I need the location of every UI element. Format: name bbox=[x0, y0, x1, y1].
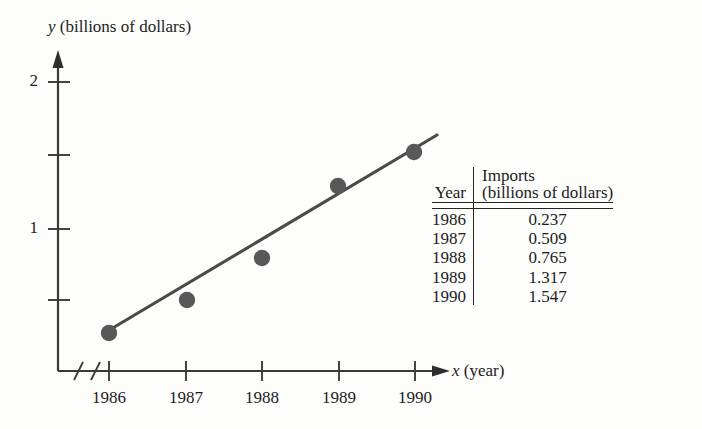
table-header-rule-row bbox=[432, 202, 613, 209]
table: Year Imports (billions of dollars) bbox=[432, 167, 613, 305]
imports-data-table: Year Imports (billions of dollars) bbox=[432, 167, 613, 305]
y-axis-variable: y bbox=[48, 17, 56, 36]
column-header-imports-line1: Imports bbox=[482, 167, 613, 184]
column-header-imports-line2: (billions of dollars) bbox=[482, 184, 613, 201]
y-axis bbox=[53, 50, 64, 371]
table-row: 1988 0.765 bbox=[432, 247, 613, 266]
cell-year: 1989 bbox=[432, 267, 474, 286]
cell-year: 1987 bbox=[432, 228, 474, 247]
data-point-1986 bbox=[101, 325, 117, 341]
y-axis-title: y (billions of dollars) bbox=[48, 17, 191, 37]
cell-imports: 0.237 bbox=[474, 209, 614, 228]
x-tick-label-1988: 1988 bbox=[231, 388, 293, 408]
figure-scatter-imports: y (billions of dollars) x (year) 2 1 198… bbox=[0, 0, 702, 429]
y-axis-unit: (billions of dollars) bbox=[60, 17, 191, 36]
y-tick-label-1: 1 bbox=[14, 218, 38, 238]
x-axis-unit: (year) bbox=[464, 361, 505, 380]
trend-line bbox=[106, 135, 437, 332]
table-header-row: Year Imports (billions of dollars) bbox=[432, 167, 613, 202]
header-rule-left bbox=[432, 202, 474, 209]
cell-year: 1990 bbox=[432, 286, 474, 305]
header-rule-double-right bbox=[474, 202, 613, 209]
data-point-1988 bbox=[254, 250, 270, 266]
table-row: 1987 0.509 bbox=[432, 228, 613, 247]
data-point-1989 bbox=[330, 178, 346, 194]
table-row: 1986 0.237 bbox=[432, 209, 613, 228]
column-header-imports: Imports (billions of dollars) bbox=[474, 167, 614, 202]
table-row: 1990 1.547 bbox=[432, 286, 613, 305]
cell-imports: 0.765 bbox=[474, 247, 614, 266]
table-body: 1986 0.237 1987 0.509 1988 0.765 1989 1.… bbox=[432, 209, 613, 306]
cell-imports: 1.317 bbox=[474, 267, 614, 286]
x-axis-variable: x bbox=[452, 361, 460, 380]
table-head: Year Imports (billions of dollars) bbox=[432, 167, 613, 209]
cell-year: 1988 bbox=[432, 247, 474, 266]
cell-imports: 0.509 bbox=[474, 228, 614, 247]
x-tick-label-1990: 1990 bbox=[384, 388, 446, 408]
cell-year: 1986 bbox=[432, 209, 474, 228]
x-tick-label-1987: 1987 bbox=[155, 388, 217, 408]
x-tick-label-1989: 1989 bbox=[308, 388, 370, 408]
y-tick-label-2: 2 bbox=[14, 71, 38, 91]
data-point-1990 bbox=[406, 144, 422, 160]
x-axis bbox=[58, 366, 450, 377]
x-tick-label-1986: 1986 bbox=[78, 388, 140, 408]
header-rule-right bbox=[474, 202, 614, 209]
header-rule-double-left bbox=[432, 202, 473, 209]
x-axis-title: x (year) bbox=[452, 361, 504, 381]
column-header-year: Year bbox=[432, 167, 474, 202]
cell-imports: 1.547 bbox=[474, 286, 614, 305]
table-row: 1989 1.317 bbox=[432, 267, 613, 286]
data-point-1987 bbox=[179, 292, 195, 308]
